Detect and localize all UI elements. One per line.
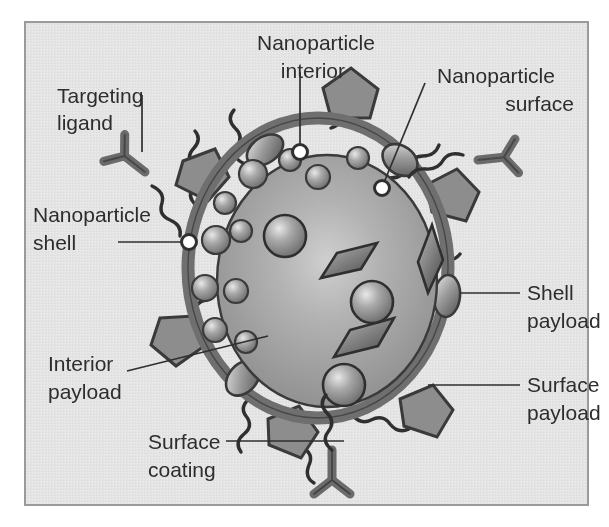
label-nanoparticle-shell-line1: Nanoparticle (33, 203, 151, 226)
label-surface-payload-line1: Surface (527, 373, 599, 396)
label-targeting-ligand-line1: Targeting (57, 84, 143, 107)
label-surface-payload-line2: payload (527, 401, 601, 424)
label-targeting-ligand-line2: ligand (57, 111, 113, 134)
label-nanoparticle-interior-line1: Nanoparticle (257, 31, 375, 54)
label-shell-payload-line2: payload (527, 309, 601, 332)
label-nanoparticle-shell-line2: shell (33, 231, 76, 254)
callout-dot-interior (293, 145, 308, 160)
label-interior-payload-line1: Interior (48, 352, 113, 375)
nanoparticle-diagram: Targeting ligand Nanoparticle shell Inte… (0, 0, 609, 527)
label-surface-coating-line1: Surface (148, 430, 220, 453)
label-nanoparticle-surface-line1: Nanoparticle (437, 64, 555, 87)
nanoparticle-figure: Targeting ligand Nanoparticle shell Inte… (0, 0, 609, 527)
label-nanoparticle-surface-line2: surface (505, 92, 574, 115)
nanoparticle-core (217, 155, 437, 407)
label-nanoparticle-interior-line2: interior (281, 59, 345, 82)
callout-dot-shell (182, 235, 197, 250)
label-shell-payload-line1: Shell (527, 281, 574, 304)
label-interior-payload-line2: payload (48, 380, 122, 403)
callout-dot-surface (375, 181, 390, 196)
label-surface-coating-line2: coating (148, 458, 216, 481)
